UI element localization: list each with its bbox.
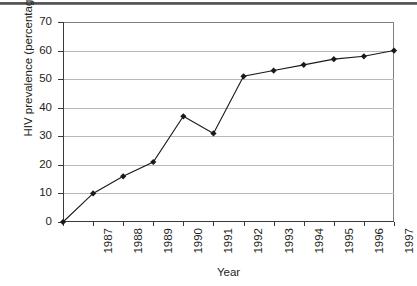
data-point-marker — [271, 67, 277, 73]
data-point-marker — [150, 159, 156, 165]
hiv-prevalence-line-chart: 010203040506070 198719881989199019911992… — [0, 0, 417, 286]
data-point-marker — [240, 73, 246, 79]
data-point-marker — [301, 62, 307, 68]
data-point-marker — [120, 173, 126, 179]
data-point-marker — [210, 130, 216, 136]
data-point-marker — [180, 113, 186, 119]
data-point-marker — [331, 56, 337, 62]
data-point-marker — [361, 53, 367, 59]
series-line — [63, 51, 394, 222]
data-point-marker — [391, 47, 397, 53]
data-series-layer — [0, 0, 417, 286]
